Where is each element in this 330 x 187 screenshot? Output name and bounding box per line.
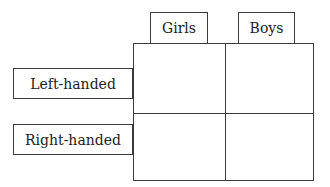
row-header-left-handed: Left-handed (13, 68, 133, 99)
cell-left-boys[interactable] (226, 44, 314, 113)
cell-left-girls[interactable] (134, 44, 225, 113)
row-header-right-handed: Right-handed (13, 124, 133, 155)
row-header-label: Left-handed (30, 76, 116, 92)
row-header-label: Right-handed (25, 132, 121, 148)
column-header-girls: Girls (150, 12, 208, 44)
cell-right-girls[interactable] (134, 114, 225, 180)
column-header-boys: Boys (238, 12, 295, 44)
column-header-label: Boys (250, 20, 284, 36)
column-header-label: Girls (162, 20, 196, 36)
cell-right-boys[interactable] (226, 114, 314, 180)
two-way-table-grid (133, 43, 314, 181)
